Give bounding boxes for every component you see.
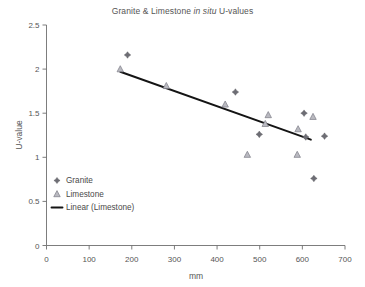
data-point-granite bbox=[232, 89, 239, 96]
data-point-limestone bbox=[244, 151, 250, 157]
x-tick-label: 700 bbox=[338, 255, 352, 264]
chart-container: Granite & Limestone in situ U-values 00.… bbox=[0, 0, 365, 287]
data-point-granite bbox=[321, 133, 328, 140]
series-limestone-points bbox=[117, 66, 316, 158]
x-axis-ticks: 0100200300400500600700 bbox=[44, 246, 352, 264]
trendline-linear-limestone bbox=[120, 72, 311, 140]
x-tick-label: 200 bbox=[125, 255, 139, 264]
data-point-granite bbox=[301, 110, 308, 117]
x-tick-label: 300 bbox=[168, 255, 182, 264]
series-granite-points bbox=[124, 52, 328, 182]
data-point-limestone bbox=[310, 113, 316, 119]
y-tick-label: 2 bbox=[35, 65, 40, 74]
x-tick-label: 0 bbox=[44, 255, 49, 264]
data-point-limestone bbox=[294, 151, 300, 157]
chart-legend: GraniteLimestoneLinear (Limestone) bbox=[52, 176, 135, 212]
data-point-granite bbox=[124, 52, 131, 59]
x-tick-label: 600 bbox=[296, 255, 310, 264]
data-point-limestone bbox=[265, 112, 271, 118]
plot-area: 00.511.522.5 0100200300400500600700 U-va… bbox=[0, 0, 365, 287]
data-point-limestone bbox=[163, 82, 169, 88]
data-point-granite bbox=[311, 175, 318, 182]
y-tick-label: 1.5 bbox=[28, 109, 40, 118]
x-tick-label: 400 bbox=[210, 255, 224, 264]
legend-label-limestone: Limestone bbox=[66, 190, 104, 199]
y-axis-label: U-value bbox=[14, 120, 24, 150]
y-tick-label: 0.5 bbox=[28, 197, 40, 206]
legend-marker-granite bbox=[54, 177, 60, 183]
y-axis-ticks: 00.511.522.5 bbox=[28, 21, 46, 251]
legend-label-granite: Granite bbox=[66, 176, 93, 185]
data-point-limestone bbox=[295, 126, 301, 132]
y-tick-label: 1 bbox=[35, 153, 40, 162]
data-point-limestone bbox=[117, 66, 123, 72]
legend-marker-limestone bbox=[54, 191, 60, 197]
data-point-granite bbox=[256, 131, 263, 138]
x-axis-label: mm bbox=[189, 271, 203, 281]
y-tick-label: 0 bbox=[35, 242, 40, 251]
y-tick-label: 2.5 bbox=[28, 21, 40, 30]
legend-label-linear-limestone: Linear (Limestone) bbox=[66, 203, 135, 212]
data-point-limestone bbox=[222, 101, 228, 107]
x-tick-label: 100 bbox=[82, 255, 96, 264]
x-tick-label: 500 bbox=[253, 255, 267, 264]
